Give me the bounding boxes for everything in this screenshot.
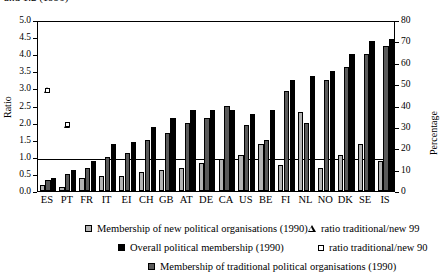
x-label-fr: FR [77, 194, 97, 205]
bar-traditional-political [304, 123, 309, 191]
bar-traditional-political [244, 125, 249, 191]
bar-overall-political [330, 71, 335, 191]
x-label-nl: NL [296, 194, 316, 205]
bar-new-political [238, 155, 243, 191]
x-label-se: SE [355, 194, 375, 205]
bar-traditional-political [264, 140, 269, 191]
y-tick-right: 60 [401, 59, 425, 69]
bar-overall-political [151, 127, 156, 191]
bar-overall-political [71, 170, 76, 191]
bar-overall-political [190, 110, 195, 191]
political-membership-chart: and 1.2 (1990) Ratio Percentage 0.00.51.… [0, 0, 440, 277]
bar-traditional-political [185, 123, 190, 191]
bar-traditional-political [165, 133, 170, 191]
y-tick-right: 40 [401, 102, 425, 112]
bar-traditional-political [224, 106, 229, 192]
bar-traditional-political [284, 91, 289, 191]
y-tick-mark-left [33, 192, 37, 193]
y-tick-right: 0 [401, 187, 425, 197]
bar-new-political [318, 168, 323, 192]
legend-item-new-political: Membership of new political organisation… [85, 222, 308, 234]
ratio-trad-new-90-marker [318, 245, 324, 251]
legend-label-new-political: Membership of new political organisation… [97, 223, 308, 234]
bar-new-political [119, 176, 124, 191]
overall-political-swatch [118, 244, 125, 251]
legend-label-traditional-political: Membership of traditional political orga… [160, 261, 396, 272]
y-tick-left: 2.5 [0, 102, 31, 112]
y-tick-right: 20 [401, 144, 425, 154]
bar-traditional-political [45, 180, 50, 191]
y-tick-left: 4.5 [0, 33, 31, 43]
bar-new-political [258, 144, 263, 191]
bar-traditional-political [383, 46, 388, 191]
plot-area [37, 21, 395, 192]
bar-overall-political [349, 54, 354, 191]
ratio-trad-new-99-marker [308, 225, 316, 232]
y-tick-mark-right [395, 192, 399, 193]
legend-item-ratio-99: ratio traditional/new 99 [308, 222, 420, 234]
bar-overall-political [369, 41, 374, 191]
x-label-pt: PT [57, 194, 77, 205]
bar-traditional-political [204, 118, 209, 191]
y-tick-mark-right [395, 171, 399, 172]
bar-overall-political [389, 39, 394, 191]
bar-traditional-political [65, 174, 70, 191]
cropped-caption-text: and 1.2 (1990) [4, 0, 68, 3]
bar-traditional-political [324, 80, 329, 191]
x-label-be: BE [256, 194, 276, 205]
y-tick-left: 4.0 [0, 50, 31, 60]
y-tick-left: 3.5 [0, 67, 31, 77]
y-tick-right: 30 [401, 123, 425, 133]
bar-traditional-political [125, 153, 130, 191]
bar-new-political [59, 187, 64, 191]
y-tick-left: 1.5 [0, 136, 31, 146]
bar-new-political [298, 112, 303, 191]
y-tick-mark-right [395, 85, 399, 86]
bar-new-political [139, 172, 144, 191]
marker-ratio-90 [45, 88, 50, 93]
bar-new-political [79, 178, 84, 191]
x-label-us: US [236, 194, 256, 205]
x-label-ca: CA [216, 194, 236, 205]
x-label-it: IT [97, 194, 117, 205]
x-label-ei: EI [117, 194, 137, 205]
x-label-de: DE [196, 194, 216, 205]
legend-item-traditional-political: Membership of traditional political orga… [148, 260, 396, 272]
y-tick-right: 10 [401, 166, 425, 176]
y-axis-right-title: Percentage [428, 111, 439, 155]
y-tick-left: 0.5 [0, 170, 31, 180]
y-tick-mark-right [395, 42, 399, 43]
x-label-ch: CH [136, 194, 156, 205]
y-tick-mark-right [395, 149, 399, 150]
bar-overall-political [51, 178, 56, 191]
chart-legend: Membership of new political organisation… [0, 222, 440, 277]
bar-traditional-political [364, 54, 369, 191]
new-political-swatch [85, 225, 92, 232]
x-label-gb: GB [156, 194, 176, 205]
bar-new-political [159, 170, 164, 191]
legend-item-overall-political: Overall political membership (1990) [118, 241, 284, 253]
bar-overall-political [210, 110, 215, 191]
legend-label-ratio-99: ratio traditional/new 99 [321, 223, 420, 234]
x-label-dk: DK [335, 194, 355, 205]
bar-new-political [378, 161, 383, 191]
bar-new-political [278, 165, 283, 191]
legend-item-ratio-90: ratio traditional/new 90 [318, 241, 428, 253]
bar-traditional-political [85, 168, 90, 192]
bar-new-political [40, 185, 45, 191]
x-label-es: ES [37, 194, 57, 205]
bar-new-political [179, 168, 184, 192]
bar-traditional-political [105, 157, 110, 191]
y-tick-left: 3.0 [0, 84, 31, 94]
bar-new-political [219, 159, 224, 191]
bar-traditional-political [344, 67, 349, 191]
cropped-caption: and 1.2 (1990) [0, 0, 440, 9]
bar-overall-political [131, 142, 136, 191]
bar-new-political [99, 176, 104, 191]
y-tick-left: 0.0 [0, 187, 31, 197]
y-tick-mark-right [395, 107, 399, 108]
y-tick-left: 1.0 [0, 153, 31, 163]
x-label-no: NO [315, 194, 335, 205]
legend-label-overall-political: Overall political membership (1990) [130, 242, 284, 253]
bar-new-political [358, 144, 363, 191]
